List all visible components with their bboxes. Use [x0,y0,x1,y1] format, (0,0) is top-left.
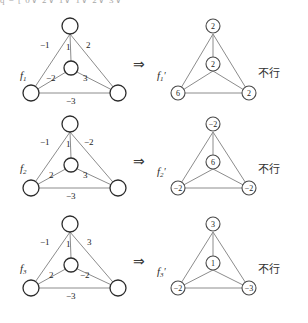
implies-arrow-2: ⇒ [133,155,145,169]
edge-top-bottomright [70,34,118,93]
edge-label-center-bottomleft: −2 [46,73,56,83]
edge-label-center-bottomright: −2 [80,270,90,280]
edge-label-center-bottomright: 3 [83,73,88,83]
node-label-bottom-left: −2 [168,185,188,193]
node-bottom-right [110,85,126,101]
edge-top-bottomleft [31,34,70,93]
node-bottom-left [23,180,39,196]
edge-top-bottomright [70,132,118,188]
edge-label-top-bottomleft: −1 [40,137,50,147]
note-row-3: 不行 [258,260,280,276]
node-center [64,258,78,272]
node-top [62,216,78,232]
cropped-header-text: q = [ 0∨ 2∨ 1∨ 1∨ 2∨ 3∨ [0,0,123,5]
edge-label-center-bottomleft: 2 [49,270,54,280]
edge-label-top-bottomleft: −1 [40,40,50,50]
edge-label-bottom-bottom: −3 [66,96,76,106]
edge-label-top-center: 1 [66,42,71,52]
node-bottom-right [110,180,126,196]
implies-arrow-1: ⇒ [133,58,145,72]
graph-right-3: 3 1 −2 −3 [160,210,305,308]
node-label-bottom-left: 6 [168,90,188,98]
node-label-bottom-right: 2 [239,90,259,98]
node-label-top: 3 [203,221,223,229]
figure-page: q = [ 0∨ 2∨ 1∨ 1∨ 2∨ 3∨ f1 [0,0,308,323]
note-row-1: 不行 [258,64,280,80]
figure-row-3: f3 −1 1 3 [0,210,308,308]
node-label-center: 6 [203,159,223,167]
node-bottom-left [23,85,39,101]
figure-row-1: f1 −1 1 2 [0,14,308,112]
node-label-center: 2 [203,61,223,69]
node-top [62,116,78,132]
node-center [64,61,78,75]
edge-label-top-bottomleft: −1 [40,237,50,247]
edge-label-top-center: 1 [66,139,71,149]
edge-label-top-bottomright: 3 [87,237,92,247]
node-label-center: 1 [203,260,223,268]
node-label-top: −2 [203,121,223,129]
edge-label-bottom-bottom: −3 [66,191,76,201]
edge-top-bottomright [70,232,118,288]
edge-label-top-bottomright: 2 [86,40,91,50]
edge-label-bottom-bottom: −3 [66,291,76,301]
edge-label-top-center: 1 [66,239,71,249]
node-label-bottom-left: −2 [168,285,188,293]
node-label-top: 2 [203,23,223,31]
edge-label-center-bottomright: 3 [83,170,88,180]
implies-arrow-3: ⇒ [133,255,145,269]
graph-right-1: 2 2 6 2 [160,14,305,112]
cropped-header-line: q = [ 0∨ 2∨ 1∨ 1∨ 2∨ 3∨ [0,0,308,12]
node-label-bottom-right: −3 [239,285,259,293]
edge-label-center-bottomleft: 2 [49,170,54,180]
figure-row-2: f2 −1 1 −2 [0,110,308,208]
node-bottom-right [110,280,126,296]
node-top [62,18,78,34]
node-label-bottom-right: −2 [239,185,259,193]
node-center [64,158,78,172]
node-bottom-left [23,280,39,296]
graph-right-2: −2 6 −2 −2 [160,110,305,208]
note-row-2: 不行 [258,160,280,176]
edge-label-top-bottomright: −2 [84,137,94,147]
